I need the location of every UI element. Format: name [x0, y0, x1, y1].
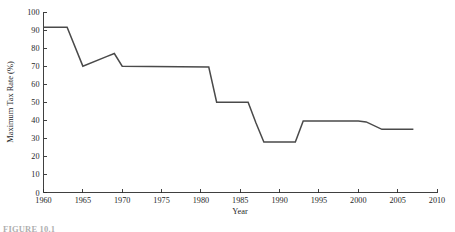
x-tick-label: 1965 — [75, 196, 91, 205]
x-tick-label: 1980 — [193, 196, 209, 205]
tax-rate-line-chart: 0102030405060708090100 Maximum Tax Rate … — [0, 0, 455, 232]
x-tick-label: 1975 — [153, 196, 169, 205]
y-axis-title: Maximum Tax Rate (%) — [6, 61, 15, 143]
y-tick-label: 30 — [31, 134, 39, 143]
x-tick-label: 1985 — [232, 196, 248, 205]
chart-background — [0, 0, 455, 232]
figure-caption: FIGURE 10.1 — [3, 224, 55, 232]
y-tick-label: 50 — [31, 98, 39, 107]
y-tick-label: 80 — [31, 44, 39, 53]
x-axis-title: Year — [232, 207, 248, 216]
x-tick-label: 1990 — [271, 196, 287, 205]
y-tick-label: 90 — [31, 26, 39, 35]
x-tick-label: 1970 — [114, 196, 130, 205]
y-tick-label: 20 — [31, 152, 39, 161]
y-tick-label: 60 — [31, 80, 39, 89]
x-tick-label: 2000 — [350, 196, 366, 205]
y-tick-label: 40 — [31, 116, 39, 125]
figure-container: 0102030405060708090100 Maximum Tax Rate … — [0, 0, 455, 232]
y-tick-label: 10 — [31, 170, 39, 179]
y-tick-label: 70 — [31, 62, 39, 71]
x-tick-label: 1995 — [311, 196, 327, 205]
x-tick-label: 1960 — [35, 196, 51, 205]
y-tick-label: 100 — [27, 8, 39, 17]
x-tick-label: 2005 — [389, 196, 405, 205]
x-tick-label: 2010 — [429, 196, 445, 205]
